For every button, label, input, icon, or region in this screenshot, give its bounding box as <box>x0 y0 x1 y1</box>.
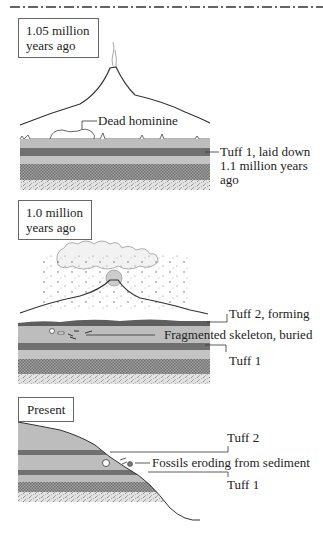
vent-ash-icon <box>106 270 122 286</box>
time-label-line1: 1.05 million <box>26 23 90 38</box>
time-label-line2: years ago <box>26 220 83 235</box>
panel-2-time-label: 1.0 million years ago <box>18 200 92 240</box>
time-label-line2: years ago <box>26 38 90 53</box>
callout-tuff-1-laid-down: Tuff 1, laid down 1.1 million years ago <box>220 145 310 187</box>
panel-3-time-label: Present <box>18 397 74 422</box>
callout-fossils-eroding: Fossils eroding from sediment <box>152 456 310 470</box>
dead-hominine-icon <box>50 129 95 139</box>
panel-1-time-label: 1.05 million years ago <box>18 18 99 58</box>
callout-dead-hominine: Dead hominine <box>98 114 178 128</box>
callout-tuff-2-forming: Tuff 2, forming <box>229 307 310 321</box>
callout-tuff-1: Tuff 1 <box>229 354 261 368</box>
panel-2-scene <box>18 241 227 384</box>
time-label-line1: Present <box>27 402 65 417</box>
time-label-line1: 1.0 million <box>26 205 83 220</box>
callout-fragmented-skeleton: Fragmented skeleton, buried <box>164 328 312 342</box>
callout-tuff-1-present: Tuff 1 <box>227 478 259 492</box>
grass-line <box>20 133 210 139</box>
callout-tuff-2: Tuff 2 <box>227 431 259 445</box>
volcano-smoke-icon <box>112 42 116 66</box>
panel-3-scene <box>18 422 228 520</box>
